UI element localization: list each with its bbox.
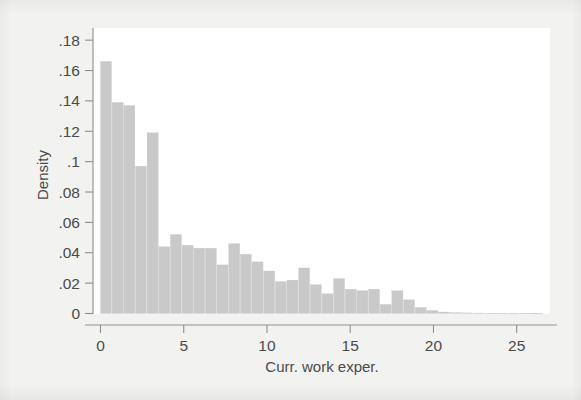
histogram-bar [275,282,286,314]
histogram-bar [345,289,356,313]
histogram-bar [520,313,531,314]
histogram-bar [135,166,146,313]
y-axis-ticks: 0.02.04.06.08.1.12.14.16.18 [58,32,93,322]
figure-canvas: 0.02.04.06.08.1.12.14.16.18 0510152025 D… [0,0,581,400]
histogram-bar [240,254,251,313]
x-axis-tick-label: 25 [508,337,525,354]
x-axis-tick-label: 20 [425,337,443,354]
histogram-bar [369,289,380,313]
histogram-bar [100,61,111,313]
x-axis-tick-label: 10 [258,337,276,354]
y-axis-tick-label: .12 [58,123,80,140]
histogram-bar [182,245,193,313]
y-axis-tick-label: .1 [67,153,80,170]
histogram-bar [252,262,263,314]
histogram-bar [462,313,473,314]
histogram-bar [450,313,461,314]
y-axis-tick-label: .04 [58,244,80,261]
histogram-bar [473,313,484,314]
histogram-bar [170,235,181,314]
y-axis-tick-label: .16 [58,62,80,79]
x-axis-tick-label: 15 [342,337,359,354]
y-axis-tick-label: .06 [58,214,80,231]
x-axis-tick-label: 0 [96,337,105,354]
histogram-bar [310,285,321,314]
histogram-bar [287,280,298,313]
y-axis-title: Density [34,149,51,200]
histogram-bar [427,310,438,313]
y-axis-tick-label: .14 [58,92,80,109]
x-axis-ticks: 0510152025 [96,325,525,354]
histogram-bar [147,133,158,314]
histogram-bar [403,300,414,314]
histogram-bar [392,291,403,314]
histogram-bar [485,313,496,314]
histogram-bar [357,291,368,314]
density-histogram-chart: 0.02.04.06.08.1.12.14.16.18 0510152025 D… [0,0,581,400]
histogram-bar [334,279,345,314]
histogram-bar [229,244,240,314]
histogram-bar [299,268,310,314]
y-axis-tick-label: .18 [58,32,80,49]
histogram-bar [532,313,543,314]
histogram-bar [217,265,228,314]
histogram-bar [415,307,426,313]
x-axis-title: Curr. work exper. [265,358,378,375]
histogram-bar [497,313,508,314]
histogram-bar [124,105,135,313]
y-axis-tick-label: .08 [58,184,80,201]
histogram-bar [322,294,333,314]
histogram-bar [205,248,216,313]
histogram-bar [159,247,170,314]
y-axis-tick-label: .02 [58,275,80,292]
histogram-bar [194,248,205,313]
histogram-bar [112,102,123,313]
histogram-bar [508,313,519,314]
histogram-bar [380,304,391,313]
histogram-bar [264,271,275,314]
histogram-bar [438,312,449,314]
x-axis-tick-label: 5 [179,337,188,354]
y-axis-tick-label: 0 [71,305,80,322]
